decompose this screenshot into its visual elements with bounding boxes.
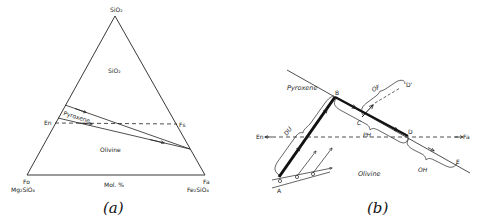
arrow-upper [75, 109, 86, 113]
label-point-c: C [357, 119, 362, 126]
label-brace-du: DU [282, 125, 293, 137]
label-point-d: D [408, 128, 413, 135]
label-region-olivine-b: Olivine [358, 170, 381, 178]
label-fo: Fo [23, 178, 30, 185]
label-fa: Fa [203, 178, 210, 185]
label-mg2sio4: Mg₂SiO₄ [11, 186, 36, 194]
label-region-sio2: SiO₂ [108, 67, 121, 74]
brace-du [275, 96, 334, 175]
pyroxene-lower-boundary [58, 118, 190, 149]
label-fa-b: Fa [463, 133, 470, 140]
label-apex-sio2: SiO₂ [110, 6, 123, 13]
label-fs: Fs [179, 121, 186, 128]
label-point-e: E [456, 158, 460, 165]
label-mol-percent: Mol. % [104, 181, 124, 188]
panel-a-ternary-diagram: SiO₂ SiO₂ Pyroxene Olivine En Fs Fo Mg₂S… [11, 6, 210, 217]
brace-oh [407, 139, 457, 167]
caption-a: (a) [103, 199, 124, 217]
brace-ph [334, 99, 408, 143]
arrow-lower [150, 140, 164, 143]
figure-canvas: SiO₂ SiO₂ Pyroxene Olivine En Fs Fo Mg₂S… [0, 0, 480, 219]
label-region-pyroxene-b: Pyroxene [287, 84, 317, 92]
label-brace-ph: PH [363, 131, 372, 138]
label-en: En [44, 119, 52, 126]
caption-b: (b) [367, 199, 388, 217]
label-point-a: A [277, 187, 282, 194]
label-region-olivine: Olivine [100, 146, 121, 153]
panel-b-reaction-path-diagram: Pyroxene Olivine En Fa A B C D D' E DU P… [256, 70, 470, 217]
label-point-d-prime: D' [406, 81, 413, 88]
label-en-b: En [256, 133, 264, 140]
label-point-b: B [335, 89, 339, 96]
label-fe2sio4: Fe₂SiO₄ [187, 186, 209, 193]
label-brace-oh: OH [418, 166, 428, 173]
point-a-marker [278, 179, 281, 182]
